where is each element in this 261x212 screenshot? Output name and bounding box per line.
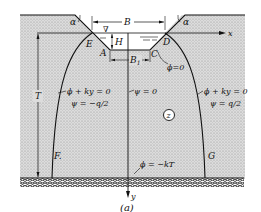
figure-caption: (a) (120, 202, 134, 212)
t-label: T (35, 91, 42, 101)
base-condition: ϕ = −kT (140, 160, 175, 169)
channel-bed-condition: ϕ=0 (167, 63, 184, 72)
h-label: H (114, 37, 123, 47)
left-condition-psi: ψ = −q/2 (71, 99, 109, 108)
z-plane-label: z (166, 111, 172, 120)
left-condition-phi: ϕ + ky = 0 (67, 87, 111, 96)
x-axis-label: x (228, 29, 233, 38)
seepage-diagram: x y T B ∇ H (0, 0, 261, 212)
b-label: B (123, 17, 131, 27)
point-e-label: E (85, 39, 93, 49)
y-axis-label: y (130, 192, 136, 201)
point-f-label: F. (53, 151, 62, 161)
water-surface-symbol: ∇ (103, 25, 109, 34)
point-g-label: G (208, 151, 215, 161)
point-d-label: D (162, 37, 170, 47)
point-a-label: A (99, 48, 107, 58)
centerline-condition: ψ = 0 (134, 87, 157, 96)
right-condition-psi: ψ = q/2 (210, 99, 241, 108)
right-condition-phi: ϕ + ky = 0 (204, 87, 248, 96)
point-c-label: C (151, 49, 158, 59)
alpha-right-label: α (183, 17, 189, 27)
impermeable-base (20, 178, 244, 187)
alpha-left-label: α (70, 17, 76, 27)
